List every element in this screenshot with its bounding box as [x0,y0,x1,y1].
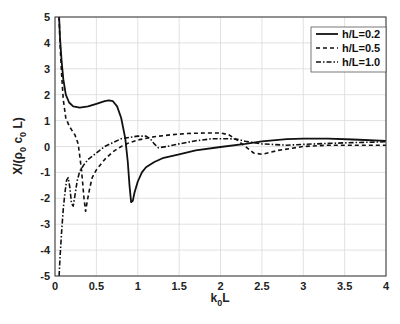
line-chart: 00.511.522.533.54 -5-4-3-2-1012345 k0L X… [0,0,400,324]
legend-label-h05: h/L=0.5 [342,42,380,54]
y-tick-label: 0 [44,141,50,153]
y-tick-label: 5 [44,11,50,23]
x-tick-label: 1.5 [171,280,186,292]
y-tick-label: -4 [40,244,51,256]
y-tick-label: 3 [44,63,50,75]
x-tick-label: 0 [52,280,58,292]
x-tick-label: 3.5 [337,280,352,292]
y-tick-label: -5 [40,270,50,282]
x-tick-label: 1 [135,280,141,292]
x-tick-labels: 00.511.522.533.54 [52,280,390,292]
legend-label-h02: h/L=0.2 [342,28,380,40]
y-tick-label: 2 [44,89,50,101]
y-tick-label: -2 [40,192,50,204]
y-tick-label: 4 [44,37,51,49]
y-tick-label: 1 [44,115,50,127]
x-tick-label: 2.5 [254,280,269,292]
y-tick-label: -1 [40,166,50,178]
x-tick-label: 4 [383,280,390,292]
x-tick-label: 3 [300,280,306,292]
x-tick-label: 0.5 [89,280,104,292]
legend: h/L=0.2 h/L=0.5 h/L=1.0 [311,27,386,72]
y-tick-label: -3 [40,218,50,230]
legend-label-h10: h/L=1.0 [342,56,380,68]
